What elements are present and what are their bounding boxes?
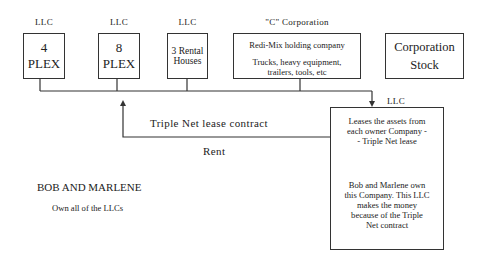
- entity-type-label: LLC: [98, 17, 140, 27]
- leasing-llc-description: Leases the assets from each owner Compan…: [347, 116, 427, 146]
- entity-type-label: LLC: [167, 17, 208, 27]
- leasing-llc-type-label: LLC: [386, 96, 406, 106]
- entity-box-4-plex: 4 PLEX: [23, 33, 65, 79]
- entity-name: 8 PLEX: [99, 40, 139, 72]
- contract-flow-label: Triple Net lease contract: [150, 117, 268, 129]
- entity-detail: Trucks, heavy equipment, trailers, tools…: [242, 57, 352, 77]
- entity-name: 4 PLEX: [24, 40, 64, 72]
- entity-name: Corporation Stock: [393, 38, 457, 74]
- leasing-llc-ownership-note: Bob and Marlene own this Company. This L…: [344, 180, 430, 230]
- entity-name: Redi-Mix holding company: [249, 40, 344, 50]
- leasing-llc-box: Leases the assets from each owner Compan…: [330, 107, 444, 250]
- owners-name: BOB AND MARLENE: [37, 181, 142, 193]
- entity-type-label: LLC: [23, 17, 65, 27]
- entity-box-corporation-stock: Corporation Stock: [385, 33, 464, 79]
- entity-box-redi-mix: Redi-Mix holding company Trucks, heavy e…: [233, 33, 361, 79]
- owners-note: Own all of the LLCs: [52, 203, 123, 213]
- entity-box-8-plex: 8 PLEX: [98, 33, 140, 79]
- rent-flow-label: Rent: [203, 145, 225, 157]
- entity-box-3-rental-houses: 3 Rental Houses: [167, 33, 208, 79]
- entity-type-label: "C" Corporation: [233, 17, 361, 27]
- entity-name: 3 Rental Houses: [168, 46, 207, 66]
